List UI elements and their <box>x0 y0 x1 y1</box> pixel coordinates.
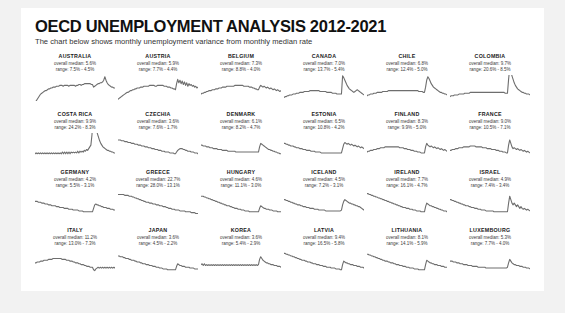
country-sparkline-cell: ITALYoverall median: 11.2%range: 13.0% -… <box>35 228 115 286</box>
overall-median-label: overall median: 4.5% <box>284 178 364 183</box>
sparkline <box>118 249 198 275</box>
range-label: range: 20.6% - 8.5% <box>450 68 530 73</box>
country-name: JAPAN <box>118 228 198 233</box>
country-name: ISRAEL <box>450 170 530 175</box>
sparkline <box>450 133 530 159</box>
overall-median-label: overall median: 9.7% <box>450 62 530 67</box>
country-name: CANADA <box>284 54 364 59</box>
sparkline-path <box>367 143 447 153</box>
country-sparkline-cell: COLOMBIAoverall median: 9.7%range: 20.6%… <box>450 54 530 112</box>
sparkline-path <box>118 140 198 154</box>
sparkline <box>118 133 198 159</box>
country-sparkline-cell: GERMANYoverall median: 4.2%range: 5.5% -… <box>35 170 115 228</box>
chart-card: OECD UNEMPLOYMENT ANALYSIS 2012-2021 The… <box>21 8 544 291</box>
sparkline <box>367 249 447 275</box>
country-sparkline-cell: DENMARKoverall median: 6.1%range: 8.2% -… <box>201 112 281 170</box>
country-name: AUSTRIA <box>118 54 198 59</box>
sparkline-path <box>450 196 530 212</box>
sparkline <box>35 133 115 159</box>
sparkline <box>201 249 281 275</box>
country-name: COLOMBIA <box>450 54 530 59</box>
country-sparkline-cell: CANADAoverall median: 7.0%range: 13.7% -… <box>284 54 364 112</box>
country-name: ESTONIA <box>284 112 364 117</box>
country-sparkline-cell: LITHUANIAoverall median: 8.1%range: 14.1… <box>367 228 447 286</box>
country-sparkline-cell: ESTONIAoverall median: 6.5%range: 10.8% … <box>284 112 364 170</box>
sparkline-path <box>450 259 530 269</box>
sparkline-path <box>284 200 364 211</box>
range-label: range: 4.5% - 2.2% <box>118 242 198 247</box>
range-label: range: 10.5% - 7.1% <box>450 126 530 131</box>
sparkline <box>367 75 447 101</box>
range-label: range: 16.1% - 4.7% <box>367 184 447 189</box>
country-sparkline-cell: KOREAoverall median: 3.6%range: 5.4% - 2… <box>201 228 281 286</box>
overall-median-label: overall median: 8.1% <box>367 236 447 241</box>
overall-median-label: overall median: 3.6% <box>201 236 281 241</box>
country-name: AUSTRALIA <box>35 54 115 59</box>
range-label: range: 9.9% - 5.0% <box>367 126 447 131</box>
sparkline <box>284 191 364 217</box>
sparkline <box>201 191 281 217</box>
overall-median-label: overall median: 7.3% <box>201 62 281 67</box>
country-sparkline-cell: BELGIUMoverall median: 7.3%range: 8.8% -… <box>201 54 281 112</box>
overall-median-label: overall median: 6.5% <box>284 120 364 125</box>
range-label: range: 5.4% - 2.9% <box>201 242 281 247</box>
range-label: range: 12.4% - 5.0% <box>367 68 447 73</box>
page-title: OECD UNEMPLOYMENT ANALYSIS 2012-2021 <box>35 18 530 35</box>
sparkline-path <box>35 77 115 101</box>
sparkline <box>284 75 364 101</box>
country-name: CHILE <box>367 54 447 59</box>
overall-median-label: overall median: 11.2% <box>35 236 115 241</box>
overall-median-label: overall median: 4.2% <box>35 178 115 183</box>
page-subtitle: The chart below shows monthly unemployme… <box>35 38 530 46</box>
sparkline <box>118 75 198 101</box>
overall-median-label: overall median: 4.9% <box>450 178 530 183</box>
sparkline-path <box>284 76 364 98</box>
sparkline-path <box>35 201 115 211</box>
country-name: ICELAND <box>284 170 364 175</box>
country-sparkline-cell: FRANCEoverall median: 9.0%range: 10.5% -… <box>450 112 530 170</box>
range-label: range: 13.0% - 7.3% <box>35 242 115 247</box>
sparkline <box>35 249 115 275</box>
range-label: range: 13.7% - 5.4% <box>284 68 364 73</box>
sparkline <box>35 75 115 101</box>
overall-median-label: overall median: 9.0% <box>450 120 530 125</box>
small-multiples-grid: AUSTRALIAoverall median: 5.6%range: 7.5%… <box>35 54 530 286</box>
sparkline-path <box>118 256 198 270</box>
country-name: GERMANY <box>35 170 115 175</box>
country-name: GREECE <box>118 170 198 175</box>
range-label: range: 8.2% - 4.7% <box>201 126 281 131</box>
country-sparkline-cell: GREECEoverall median: 22.7%range: 28.0% … <box>118 170 198 228</box>
range-label: range: 14.1% - 5.9% <box>367 242 447 247</box>
sparkline-path <box>284 253 364 269</box>
country-sparkline-cell: IRELANDoverall median: 7.7%range: 16.1% … <box>367 170 447 228</box>
country-name: LUXEMBOURG <box>450 228 530 233</box>
country-name: IRELAND <box>367 170 447 175</box>
sparkline <box>35 191 115 217</box>
range-label: range: 8.8% - 4.0% <box>201 68 281 73</box>
country-name: FINLAND <box>367 112 447 117</box>
range-label: range: 7.2% - 3.1% <box>284 184 364 189</box>
country-name: KOREA <box>201 228 281 233</box>
sparkline-path <box>118 194 198 213</box>
country-name: LATVIA <box>284 228 364 233</box>
country-sparkline-cell: FINLANDoverall median: 8.3%range: 9.9% -… <box>367 112 447 170</box>
sparkline-path <box>367 254 447 270</box>
overall-median-label: overall median: 4.6% <box>201 178 281 183</box>
overall-median-label: overall median: 5.6% <box>35 62 115 67</box>
sparkline <box>201 75 281 101</box>
country-sparkline-cell: ISRAELoverall median: 4.9%range: 7.4% - … <box>450 170 530 228</box>
range-label: range: 7.5% - 4.5% <box>35 68 115 73</box>
country-name: FRANCE <box>450 112 530 117</box>
overall-median-label: overall median: 22.7% <box>118 178 198 183</box>
sparkline <box>118 191 198 217</box>
country-name: DENMARK <box>201 112 281 117</box>
range-label: range: 7.6% - 1.7% <box>118 126 198 131</box>
country-sparkline-cell: JAPANoverall median: 3.6%range: 4.5% - 2… <box>118 228 198 286</box>
country-sparkline-cell: HUNGARYoverall median: 4.6%range: 11.1% … <box>201 170 281 228</box>
country-name: HUNGARY <box>201 170 281 175</box>
range-label: range: 7.7% - 4.0% <box>450 242 530 247</box>
country-sparkline-cell: COSTA RICAoverall median: 9.9%range: 24.… <box>35 112 115 170</box>
overall-median-label: overall median: 7.7% <box>367 178 447 183</box>
sparkline-path <box>35 258 115 270</box>
overall-median-label: overall median: 6.1% <box>201 120 281 125</box>
